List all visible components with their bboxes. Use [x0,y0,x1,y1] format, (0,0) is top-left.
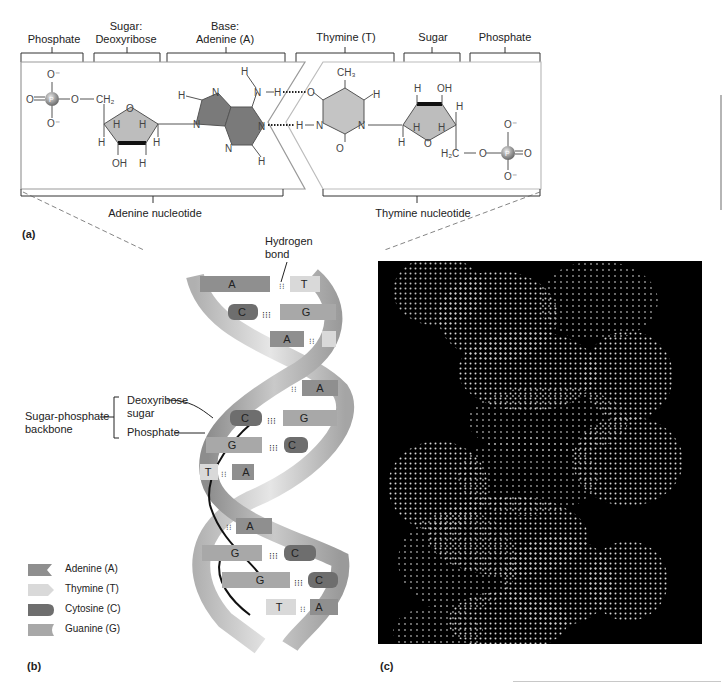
cytosine-swatch-icon [28,604,54,616]
svg-text:P: P [505,150,510,157]
svg-text:⁝⁝: ⁝⁝ [221,470,227,479]
space-filling-image [378,261,702,644]
panel-label-b: (b) [27,660,41,672]
label-thymine-nucleotide: Thymine nucleotide [368,207,478,220]
legend-cytosine: Cytosine (C) [65,602,121,615]
svg-text:A: A [242,466,250,478]
dotted-helix-render [378,261,702,644]
svg-text:⁝⁝⁝: ⁝⁝⁝ [269,551,278,561]
svg-text:A: A [316,382,324,394]
svg-text:H: H [398,137,405,148]
svg-text:⁝⁝: ⁝⁝ [300,605,306,614]
svg-text:C: C [315,574,323,586]
svg-text:O⁻: O⁻ [504,119,517,130]
svg-text:⁝⁝⁝: ⁝⁝⁝ [294,578,303,588]
svg-text:H: H [414,83,421,94]
adenine-swatch-icon [28,564,52,576]
svg-text:A: A [228,278,236,290]
svg-text:G: G [228,439,237,451]
svg-text:H: H [456,101,463,112]
legend-thymine: Thymine (T) [65,582,119,595]
svg-text:C: C [238,306,246,318]
panel-label-c: (c) [380,660,393,672]
svg-text:⁝⁝⁝: ⁝⁝⁝ [269,443,278,453]
label-sugar-phosphate-backbone: Sugar-phosphate backbone [25,410,109,436]
svg-text:T: T [205,466,212,478]
svg-text:H₂C: H₂C [441,148,459,159]
svg-text:T: T [276,601,283,613]
svg-text:OH: OH [437,83,452,94]
svg-text:⁝⁝: ⁝⁝ [226,523,232,532]
svg-text:O: O [524,148,532,159]
legend-adenine: Adenine (A) [65,562,118,575]
svg-text:A: A [283,333,291,345]
svg-text:⁝⁝: ⁝⁝ [309,337,315,346]
svg-text:G: G [256,574,265,586]
svg-text:H: H [373,89,380,100]
svg-text:T: T [301,278,308,290]
svg-text:⁝⁝: ⁝⁝ [279,282,285,291]
svg-text:G: G [231,547,240,559]
thymine-swatch-icon [28,584,54,596]
label-phosphate-backbone: Phosphate [127,426,180,439]
svg-text:G: G [302,306,311,318]
svg-text:⁝⁝⁝: ⁝⁝⁝ [267,416,276,426]
label-deoxyribose-sugar: Deoxyribose sugar [127,394,188,420]
legend-guanine: Guanine (G) [65,622,120,635]
legend-swatches [28,562,58,646]
svg-text:G: G [300,412,309,424]
svg-text:H: H [438,122,445,133]
svg-text:A: A [315,601,323,613]
svg-text:O⁻: O⁻ [504,171,517,182]
svg-text:C: C [291,547,299,559]
svg-text:O: O [479,148,487,159]
svg-text:C: C [241,412,249,424]
svg-text:H: H [413,122,420,133]
svg-text:⁝⁝⁝: ⁝⁝⁝ [262,310,271,320]
page-bottom-rule [513,681,721,682]
svg-text:⁝⁝: ⁝⁝ [291,385,297,394]
svg-text:A: A [246,520,254,532]
guanine-swatch-icon [28,624,54,636]
svg-text:O: O [424,138,432,149]
svg-text:C: C [288,439,296,451]
